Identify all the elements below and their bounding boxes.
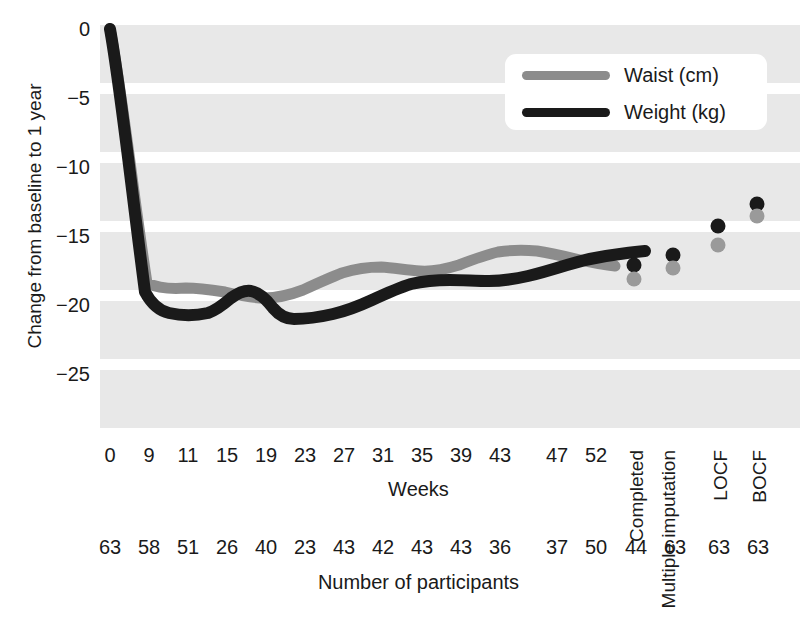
y-tick-m25: −25 xyxy=(34,364,90,384)
participant-count-7: 42 xyxy=(372,537,394,557)
legend-label-weight: Weight (kg) xyxy=(624,101,726,124)
participant-count-5: 23 xyxy=(294,537,316,557)
participant-count-9: 43 xyxy=(450,537,472,557)
dot-weight-completed xyxy=(627,258,642,273)
x-axis-title: Weeks xyxy=(0,478,812,501)
x-tick-0: 0 xyxy=(104,445,115,465)
x-tick-23: 23 xyxy=(294,445,316,465)
legend-swatch-weight xyxy=(522,108,610,117)
legend: Waist (cm) Weight (kg) xyxy=(505,54,767,130)
participant-count-4: 40 xyxy=(255,537,277,557)
y-tick-m20: −20 xyxy=(34,295,90,315)
y-tick-m10: −10 xyxy=(34,157,90,177)
dot-weight-locf xyxy=(711,219,726,234)
participant-count-14: 63 xyxy=(664,537,686,557)
x-tick-19: 19 xyxy=(255,445,277,465)
x-tick-9: 9 xyxy=(143,445,154,465)
legend-entry-waist: Waist (cm) xyxy=(505,56,767,94)
participant-count-15: 63 xyxy=(708,537,730,557)
legend-entry-weight: Weight (kg) xyxy=(505,93,767,131)
participant-count-16: 63 xyxy=(747,537,769,557)
participant-count-8: 43 xyxy=(411,537,433,557)
y-tick-0: 0 xyxy=(34,19,90,39)
participant-count-10: 36 xyxy=(489,537,511,557)
participant-count-6: 43 xyxy=(333,537,355,557)
x-tick-52: 52 xyxy=(585,445,607,465)
x-tick-35: 35 xyxy=(411,445,433,465)
x-tick-39: 39 xyxy=(450,445,472,465)
x-tick-47: 47 xyxy=(546,445,568,465)
participant-count-11: 37 xyxy=(546,537,568,557)
y-tick-m15: −15 xyxy=(34,226,90,246)
dot-waist-bocf xyxy=(750,209,765,224)
dot-waist-completed xyxy=(627,272,642,287)
participant-count-0: 63 xyxy=(99,537,121,557)
participant-count-2: 51 xyxy=(177,537,199,557)
x-tick-43: 43 xyxy=(489,445,511,465)
legend-swatch-waist xyxy=(522,71,610,80)
participant-count-3: 26 xyxy=(216,537,238,557)
participant-count-12: 50 xyxy=(585,537,607,557)
participants-row-title: Number of participants xyxy=(0,571,812,594)
x-tick-31: 31 xyxy=(372,445,394,465)
y-tick-m5: −5 xyxy=(34,88,90,108)
dot-waist-locf xyxy=(711,238,726,253)
participant-count-1: 58 xyxy=(138,537,160,557)
participant-count-13: 44 xyxy=(625,537,647,557)
x-tick-15: 15 xyxy=(216,445,238,465)
x-tick-27: 27 xyxy=(333,445,355,465)
legend-label-waist: Waist (cm) xyxy=(624,64,719,87)
x-tick-11: 11 xyxy=(178,445,199,465)
chart-figure: Change from baseline to 1 year 0 −5 −10 … xyxy=(0,0,812,635)
y-axis-tick-labels: 0 −5 −10 −15 −20 −25 xyxy=(34,0,90,635)
dot-waist-multiple-imputation xyxy=(666,261,681,276)
